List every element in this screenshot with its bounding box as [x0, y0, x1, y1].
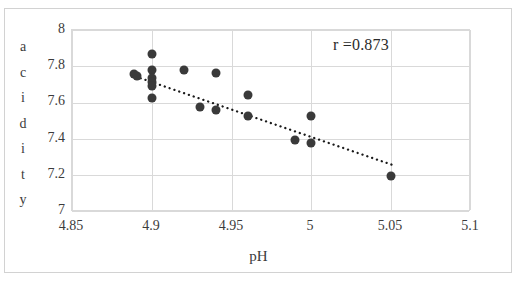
y-axis-title-letter: a: [14, 34, 32, 60]
data-point: [179, 66, 188, 75]
trendline: [72, 30, 471, 212]
y-axis-title-letter: d: [14, 111, 32, 137]
plot-area: [71, 29, 470, 211]
x-axis-ticks: 4.85 4.9 4.95 5 5.05 5.1: [0, 219, 517, 239]
data-point: [307, 112, 316, 121]
data-point: [243, 90, 252, 99]
data-point: [307, 139, 316, 148]
y-tick-label: 7: [3, 203, 65, 217]
data-point: [147, 50, 156, 59]
data-point: [291, 135, 300, 144]
y-tick-label: 7.6: [3, 94, 65, 108]
chart-canvas: 8 7.8 7.6 7.4 7.2 7 a c i d i t y r =0: [0, 0, 517, 283]
x-tick-label: 5: [307, 219, 314, 233]
y-axis-title: a c i d i t y: [14, 34, 32, 213]
data-point: [195, 102, 204, 111]
data-point: [211, 69, 220, 78]
data-point: [133, 72, 142, 81]
y-axis-title-letter: y: [14, 187, 32, 213]
x-tick-label: 4.85: [59, 219, 84, 233]
y-tick-label: 7.2: [3, 167, 65, 181]
data-point: [243, 111, 252, 120]
y-axis-title-letter: i: [14, 136, 32, 162]
x-tick-label: 4.9: [142, 219, 160, 233]
y-tick-label: 7.8: [3, 58, 65, 72]
data-point: [147, 81, 156, 90]
y-axis-title-letter: t: [14, 162, 32, 188]
data-point: [211, 106, 220, 115]
data-point: [147, 94, 156, 103]
y-axis-ticks: 8 7.8 7.6 7.4 7.2 7: [0, 0, 65, 283]
data-point: [387, 172, 396, 181]
x-axis-title: pH: [0, 248, 517, 265]
x-tick-label: 5.05: [378, 219, 403, 233]
x-tick-label: 5.1: [461, 219, 479, 233]
y-axis-title-letter: i: [14, 85, 32, 111]
correlation-annotation: r =0.873: [333, 36, 389, 54]
y-axis-title-letter: c: [14, 60, 32, 86]
x-tick-label: 4.95: [219, 219, 244, 233]
y-tick-label: 8: [3, 22, 65, 36]
y-tick-label: 7.4: [3, 131, 65, 145]
